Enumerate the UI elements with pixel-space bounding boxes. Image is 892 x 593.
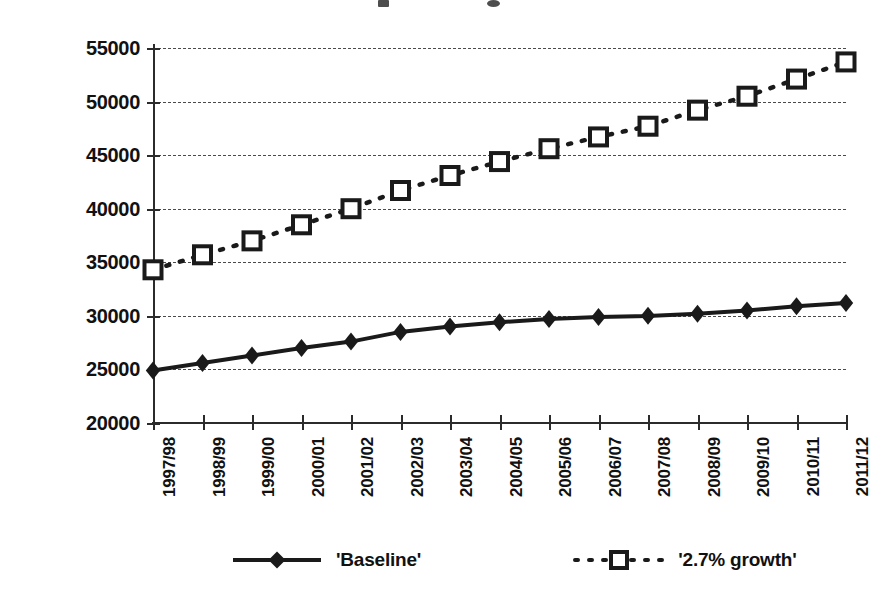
legend-label-growth: '2.7% growth' xyxy=(678,549,796,571)
x-tick-2004-05 xyxy=(500,415,502,430)
y-tick-label-30000: 30000 xyxy=(48,304,140,327)
cropped-title-remnant-1 xyxy=(378,0,389,7)
x-tick-label-2011-12: 2011/12 xyxy=(853,437,873,496)
y-tick-30000 xyxy=(147,316,160,318)
x-tick-2002-03 xyxy=(401,415,403,430)
y-tick-label-45000: 45000 xyxy=(48,144,140,167)
gridline-y-45000 xyxy=(153,155,846,156)
x-tick-label-2004-05: 2004/05 xyxy=(507,437,527,497)
x-tick-2007-08 xyxy=(648,415,650,430)
legend-marker-filled-diamond xyxy=(231,549,323,571)
legend-marker-open-square xyxy=(573,549,665,571)
chart-figure: Forecast intakes to pre-registration nur… xyxy=(0,0,892,593)
gridline-y-25000 xyxy=(153,369,846,370)
x-tick-label-2005-06: 2005/06 xyxy=(556,437,576,497)
x-tick-label-2002-03: 2002/03 xyxy=(408,437,428,497)
gridline-y-30000 xyxy=(153,316,846,317)
x-tick-label-2009-10: 2009/10 xyxy=(754,437,774,497)
gridline-y-40000 xyxy=(153,209,846,210)
y-tick-label-25000: 25000 xyxy=(48,358,140,381)
x-tick-2003-04 xyxy=(450,415,452,430)
legend: 'Baseline' '2.7% growth' xyxy=(153,540,846,580)
plot-area xyxy=(153,48,846,423)
y-tick-label-55000: 55000 xyxy=(48,37,140,60)
y-tick-40000 xyxy=(147,209,160,211)
y-tick-25000 xyxy=(147,369,160,371)
x-tick-label-2001-02: 2001/02 xyxy=(358,437,378,497)
x-tick-2001-02 xyxy=(351,415,353,430)
y-tick-label-50000: 50000 xyxy=(48,90,140,113)
y-tick-50000 xyxy=(147,102,160,104)
y-tick-label-20000: 20000 xyxy=(48,412,140,435)
x-tick-2005-06 xyxy=(549,415,551,430)
legend-entry-baseline[interactable]: 'Baseline' xyxy=(231,549,421,571)
x-tick-2009-10 xyxy=(747,415,749,430)
gridline-y-55000 xyxy=(153,48,846,49)
x-tick-label-2010-11: 2010/11 xyxy=(804,437,824,496)
y-tick-45000 xyxy=(147,155,160,157)
cropped-title-remnant-2 xyxy=(487,0,500,7)
gridline-y-35000 xyxy=(153,262,846,263)
x-tick-label-2007-08: 2007/08 xyxy=(655,437,675,497)
x-tick-label-1998-99: 1998/99 xyxy=(210,437,230,497)
legend-label-baseline: 'Baseline' xyxy=(336,549,421,571)
x-tick-label-1997-98: 1997/98 xyxy=(160,437,180,497)
x-tick-1998-99 xyxy=(203,415,205,430)
y-tick-55000 xyxy=(147,48,160,50)
legend-entry-growth[interactable]: '2.7% growth' xyxy=(573,549,796,571)
x-tick-label-2006-07: 2006/07 xyxy=(606,437,626,497)
x-tick-2008-09 xyxy=(698,415,700,430)
y-tick-label-35000: 35000 xyxy=(48,251,140,274)
gridline-y-50000 xyxy=(153,102,846,103)
x-tick-label-2000-01: 2000/01 xyxy=(309,437,329,497)
x-tick-2011-12 xyxy=(846,415,848,430)
x-tick-1999-00 xyxy=(252,415,254,430)
x-tick-label-2003-04: 2003/04 xyxy=(457,437,477,497)
x-tick-label-2008-09: 2008/09 xyxy=(705,437,725,497)
y-tick-label-40000: 40000 xyxy=(48,197,140,220)
y-tick-35000 xyxy=(147,262,160,264)
x-tick-2006-07 xyxy=(599,415,601,430)
x-tick-1997-98 xyxy=(153,415,155,430)
x-tick-2000-01 xyxy=(302,415,304,430)
x-tick-2010-11 xyxy=(797,415,799,430)
x-tick-label-1999-00: 1999/00 xyxy=(259,437,279,497)
